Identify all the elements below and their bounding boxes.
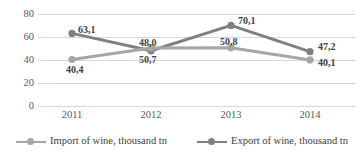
legend-item-export[interactable]: Export of wine, thousand tn xyxy=(197,136,348,147)
x-tick-2013: 2013 xyxy=(201,110,261,121)
y-tick-20: 20 xyxy=(8,78,34,89)
label-import-2011: 40,4 xyxy=(66,65,84,75)
label-export-2014: 47,2 xyxy=(318,42,336,52)
y-tick-80: 80 xyxy=(8,9,34,20)
chart-legend: Import of wine, thousand tn Export of wi… xyxy=(0,130,364,152)
line-chart: 80 60 40 20 0 63,1 48,0 70,1 47,2 40,4 5… xyxy=(0,0,364,154)
gridline-40 xyxy=(38,60,356,61)
x-tick-2012: 2012 xyxy=(121,110,181,121)
label-import-2012: 50,7 xyxy=(139,55,157,65)
legend-marker-import-icon xyxy=(16,136,46,147)
label-export-2012: 48,0 xyxy=(139,38,157,48)
gridline-20 xyxy=(38,83,356,84)
label-export-2011: 63,1 xyxy=(78,25,96,35)
x-tick-2014: 2014 xyxy=(280,110,340,121)
legend-label-import: Import of wine, thousand tn xyxy=(50,136,167,147)
label-import-2013: 50,8 xyxy=(220,37,238,47)
y-tick-60: 60 xyxy=(8,32,34,43)
gridline-60 xyxy=(38,37,356,38)
gridline-80 xyxy=(38,14,356,15)
label-export-2013: 70,1 xyxy=(238,16,256,26)
legend-marker-export-icon xyxy=(197,136,227,147)
y-tick-0: 0 xyxy=(8,101,34,112)
legend-label-export: Export of wine, thousand tn xyxy=(231,136,348,147)
legend-item-import[interactable]: Import of wine, thousand tn xyxy=(16,136,167,147)
gridline-0 xyxy=(38,106,356,107)
x-tick-2011: 2011 xyxy=(42,110,102,121)
label-import-2014: 40,1 xyxy=(318,58,336,68)
y-tick-40: 40 xyxy=(8,55,34,66)
